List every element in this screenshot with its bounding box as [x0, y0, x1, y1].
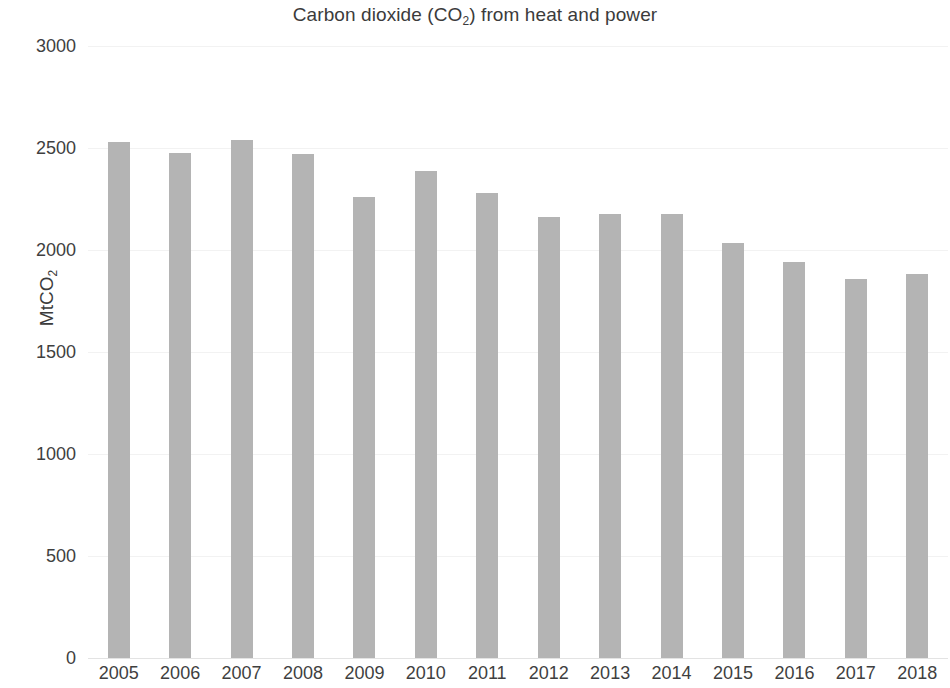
y-axis-tick-label: 2500 [6, 139, 76, 157]
x-axis-tick-label: 2009 [329, 664, 399, 682]
x-axis-tick-label: 2006 [145, 664, 215, 682]
gridline [88, 658, 948, 659]
x-axis-tick-label: 2018 [882, 664, 950, 682]
x-axis-tick-label: 2016 [759, 664, 829, 682]
y-axis-tick-label: 1000 [6, 445, 76, 463]
bar [415, 171, 437, 658]
x-axis-tick-label: 2005 [84, 664, 154, 682]
x-axis-tick-label: 2007 [207, 664, 277, 682]
bar [783, 262, 805, 658]
gridline [88, 454, 948, 455]
x-axis-tick-label: 2008 [268, 664, 338, 682]
y-axis-tick-label: 3000 [6, 37, 76, 55]
bar-chart: Carbon dioxide (CO2) from heat and power… [0, 0, 950, 688]
gridline [88, 46, 948, 47]
chart-title: Carbon dioxide (CO2) from heat and power [0, 4, 950, 26]
y-axis-tick-label: 1500 [6, 343, 76, 361]
x-axis-tick-label: 2011 [452, 664, 522, 682]
y-axis-title-prefix: MtCO [36, 277, 57, 327]
chart-title-prefix: Carbon dioxide (CO [293, 4, 463, 25]
x-axis-tick-label: 2014 [637, 664, 707, 682]
chart-title-subscript: 2 [462, 14, 469, 28]
gridline [88, 148, 948, 149]
bar [231, 140, 253, 658]
bar [292, 154, 314, 658]
bar [353, 197, 375, 658]
gridline [88, 250, 948, 251]
bar [661, 214, 683, 658]
y-axis-tick-label: 500 [6, 547, 76, 565]
y-axis-tick-label: 0 [6, 649, 76, 667]
bar [599, 214, 621, 658]
x-axis-tick-label: 2017 [821, 664, 891, 682]
bar [906, 274, 928, 658]
bar [108, 142, 130, 658]
chart-title-suffix: ) from heat and power [469, 4, 657, 25]
bar [169, 153, 191, 658]
gridline [88, 556, 948, 557]
x-axis-tick-label: 2010 [391, 664, 461, 682]
gridline [88, 352, 948, 353]
x-axis-tick-label: 2013 [575, 664, 645, 682]
x-axis-tick-label: 2015 [698, 664, 768, 682]
bar [538, 217, 560, 658]
bar [476, 193, 498, 658]
bar [722, 243, 744, 658]
bar [845, 279, 867, 658]
x-axis-tick-label: 2012 [514, 664, 584, 682]
plot-area [88, 46, 948, 658]
y-axis-tick-label: 2000 [6, 241, 76, 259]
y-axis-title-subscript: 2 [46, 270, 60, 277]
